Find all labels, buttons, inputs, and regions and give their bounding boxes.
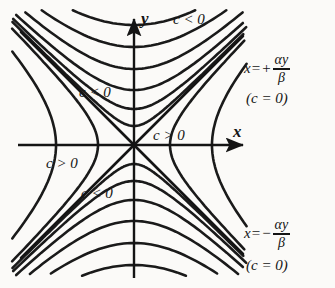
label-c-negative-lower: c < 0 bbox=[81, 186, 113, 201]
asymptote-lower-note: (c = 0) bbox=[246, 258, 288, 273]
label-c-positive-left: c > 0 bbox=[46, 156, 78, 171]
hyperbola-curves bbox=[12, 10, 247, 275]
asymptote-lower-denominator: β bbox=[276, 235, 287, 250]
asymptote-upper-note: (c = 0) bbox=[246, 91, 288, 106]
asymptote-upper-equation: x = + αy β bbox=[244, 53, 290, 85]
label-c-negative-top: c < 0 bbox=[173, 12, 205, 27]
label-c-negative-upper-left: c < 0 bbox=[79, 85, 111, 100]
asymptote-lower-equation: x = − αy β bbox=[244, 218, 290, 250]
asymptote-lower-fraction: αy β bbox=[273, 218, 291, 250]
hyperbola-level-curve-figure: y x c < 0 c < 0 c > 0 c > 0 c < 0 x = + … bbox=[0, 0, 335, 288]
asymptote-lower-numerator: αy bbox=[273, 218, 291, 233]
asymptote-upper-equals: = bbox=[251, 61, 261, 76]
asymptote-lower-lhs: x bbox=[244, 226, 251, 241]
asymptote-lower-sign: − bbox=[261, 226, 271, 241]
y-axis-label: y bbox=[141, 10, 149, 27]
asymptote-upper-sign: + bbox=[261, 61, 271, 76]
asymptote-upper-lhs: x bbox=[244, 61, 251, 76]
asymptote-upper-numerator: αy bbox=[273, 53, 291, 68]
x-axis-label: x bbox=[233, 123, 242, 140]
asymptote-upper-denominator: β bbox=[276, 70, 287, 85]
label-c-positive-right: c > 0 bbox=[153, 128, 185, 143]
asymptote-lower-equals: = bbox=[251, 226, 261, 241]
asymptote-upper-fraction: αy β bbox=[273, 53, 291, 85]
